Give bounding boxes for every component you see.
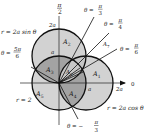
axis-arrow-icon xyxy=(120,81,126,86)
region-a7: A7 xyxy=(102,41,110,49)
ray-label-mpi3-prefix: θ = − xyxy=(67,123,83,129)
ray-label-pi6-num: π xyxy=(134,42,139,48)
label-r2a-cos: r = 2a cos θ xyxy=(107,104,144,111)
ray-label-mpi3-num: π xyxy=(94,119,99,125)
ray-label-pi3-den: 3 xyxy=(99,10,103,16)
polar-regions-diagram: π 2 2a a a 2a 0 r = 2a sin θ r = 2a cos … xyxy=(0,0,147,140)
ray-label-5pi6-den: 6 xyxy=(16,53,20,59)
tick-a-horizontal: a xyxy=(88,86,91,92)
ray-label-mpi3-den: 3 xyxy=(95,127,99,133)
ray-label-pi6-prefix: θ = xyxy=(120,46,130,52)
tick-a-vertical: a xyxy=(51,49,54,55)
ray-label-5pi6-num: 5π xyxy=(14,46,21,52)
axis-top-den: 2 xyxy=(58,8,62,15)
ray-label-5pi6-prefix: θ = xyxy=(1,50,11,56)
tick-2a-vertical: 2a xyxy=(48,22,56,28)
ray-label-pi4-den: 4 xyxy=(119,24,123,30)
label-r2: r = 2 xyxy=(16,96,32,103)
tick-2a-horizontal: 2a xyxy=(115,86,123,92)
ray-label-pi6-den: 6 xyxy=(135,49,139,55)
ray-label-pi4-prefix: θ = xyxy=(104,21,114,27)
label-r2a-sin: r = 2a sin θ xyxy=(1,28,37,35)
ray-label-pi3-prefix: θ = xyxy=(84,7,94,13)
axis-right-label: 0 xyxy=(131,81,135,87)
ray-label-pi3-num: π xyxy=(98,3,103,9)
ray-label-pi4-num: π xyxy=(118,17,123,23)
